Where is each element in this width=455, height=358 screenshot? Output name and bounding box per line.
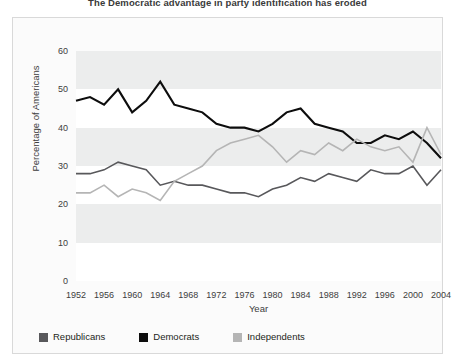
x-tick-label: 2004 xyxy=(424,290,455,300)
y-tick-label: 30 xyxy=(42,161,68,171)
line-independents xyxy=(76,128,441,201)
x-axis-title: Year xyxy=(76,303,441,314)
y-tick-label: 0 xyxy=(42,276,68,286)
y-tick-label: 60 xyxy=(42,46,68,56)
y-axis-title: Percentage of Americans xyxy=(30,44,41,194)
legend-swatch-icon xyxy=(233,333,242,342)
legend-swatch-icon xyxy=(139,333,148,342)
legend-item[interactable]: Independents xyxy=(233,332,305,342)
legend-label: Republicans xyxy=(53,332,105,342)
chart-legend: RepublicansDemocratsIndependents xyxy=(39,332,339,342)
y-tick-label: 10 xyxy=(42,238,68,248)
figure-title: The Democratic advantage in party identi… xyxy=(0,0,455,10)
y-tick-label: 50 xyxy=(42,84,68,94)
legend-label: Independents xyxy=(247,332,305,342)
legend-item[interactable]: Republicans xyxy=(39,332,105,342)
series-lines xyxy=(76,51,441,281)
legend-label: Democrats xyxy=(153,332,199,342)
chart-card: Percentage of Americans 0102030405060 19… xyxy=(12,17,443,354)
y-tick-label: 20 xyxy=(42,199,68,209)
y-tick-label: 40 xyxy=(42,123,68,133)
plot-area xyxy=(76,51,441,281)
line-republicans xyxy=(76,162,441,197)
line-democrats xyxy=(76,82,441,159)
figure-container: The Democratic advantage in party identi… xyxy=(0,0,455,358)
legend-swatch-icon xyxy=(39,333,48,342)
legend-item[interactable]: Democrats xyxy=(139,332,199,342)
